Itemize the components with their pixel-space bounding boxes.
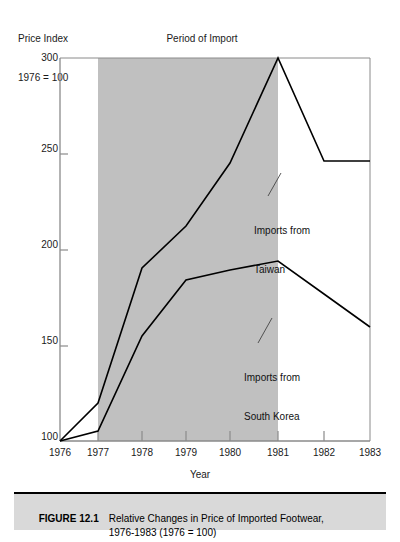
figure-number: FIGURE 12.1	[39, 513, 99, 524]
figure-caption-first-row: FIGURE 12.1Relative Changes in Price of …	[22, 498, 386, 542]
x-tick-1980: 1980	[210, 447, 250, 458]
figure-caption: FIGURE 12.1Relative Changes in Price of …	[14, 492, 386, 530]
y-tick-marks	[60, 154, 68, 346]
x-tick-1981: 1981	[258, 447, 298, 458]
figure-caption-text: Relative Changes in Price of Imported Fo…	[109, 512, 324, 540]
x-tick-1982: 1982	[304, 447, 344, 458]
series-label-taiwan-line2: Taiwan	[254, 263, 310, 276]
series-label-taiwan: Imports from Taiwan	[254, 198, 310, 302]
x-tick-1979: 1979	[166, 447, 206, 458]
x-tick-1983: 1983	[350, 447, 390, 458]
x-tick-1978: 1978	[122, 447, 162, 458]
series-label-south-korea-line1: Imports from	[244, 371, 300, 384]
x-tick-1976: 1976	[40, 447, 80, 458]
x-tick-1977: 1977	[78, 447, 118, 458]
series-label-south-korea: Imports from South Korea	[244, 345, 300, 449]
x-axis-title: Year	[0, 468, 400, 481]
series-label-taiwan-line1: Imports from	[254, 224, 310, 237]
series-label-south-korea-line2: South Korea	[244, 410, 300, 423]
figure-caption-line1: Relative Changes in Price of Imported Fo…	[109, 512, 324, 526]
figure-caption-line2: 1976-1983 (1976 = 100)	[109, 526, 324, 540]
